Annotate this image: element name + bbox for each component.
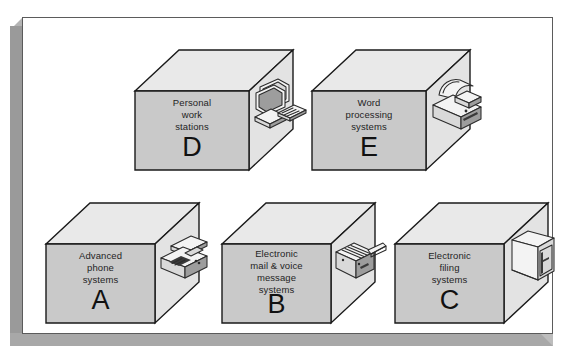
box-c[interactable]: Electronic filing systems C — [394, 190, 549, 324]
box-d-letter: D — [135, 134, 249, 161]
box-d-caption: Personal work stations — [135, 97, 249, 133]
box-e-caption: Word processing systems — [312, 97, 426, 133]
filing-cabinet-icon — [508, 228, 560, 282]
frame-shadow-corner-bottom-right — [540, 333, 553, 346]
box-e-letter: E — [312, 134, 426, 161]
box-a[interactable]: Advanced phone systems A — [45, 190, 200, 324]
figure-frame: Personal work stations D — [0, 0, 574, 363]
box-c-caption: Electronic filing systems — [395, 250, 504, 286]
box-c-letter: C — [395, 287, 504, 314]
printer-icon — [429, 77, 485, 129]
fax-answering-machine-icon — [333, 234, 387, 282]
telephone-icon — [157, 232, 211, 282]
box-b-letter: B — [222, 291, 331, 318]
box-a-letter: A — [46, 287, 155, 314]
box-b[interactable]: Electronic mail & voice message systems … — [221, 190, 376, 324]
box-e[interactable]: Word processing systems E — [311, 37, 471, 171]
frame-shadow-bottom — [10, 333, 553, 346]
box-d[interactable]: Personal work stations D — [134, 37, 294, 171]
desktop-computer-workstation-icon — [252, 77, 308, 129]
diagram-panel: Personal work stations D — [22, 17, 553, 334]
box-a-caption: Advanced phone systems — [46, 250, 155, 286]
